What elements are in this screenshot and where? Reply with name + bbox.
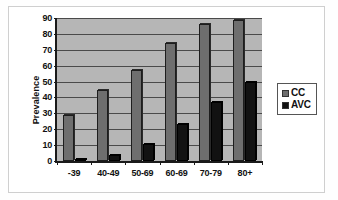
legend-item-label: AVC	[291, 100, 311, 110]
x-tick-label: 70-79	[200, 168, 222, 178]
bar-cc-40-49	[97, 90, 108, 162]
x-tick-label: -39	[68, 168, 80, 178]
y-tick-label: 10	[42, 140, 52, 150]
bar-cc--39	[63, 115, 74, 161]
legend-item-cc: CC	[282, 87, 311, 99]
y-tick-label: 50	[42, 77, 52, 87]
x-tick-mark	[262, 161, 263, 165]
bar-cc-60-69	[165, 43, 176, 161]
y-tick-label: 60	[42, 61, 52, 71]
chart-figure: Prevalence 0102030405060708090 -3940-495…	[0, 0, 338, 200]
y-axis-ticks: 0102030405060708090	[57, 18, 262, 161]
bar-cc-70-79	[199, 24, 210, 161]
x-tick-mark	[57, 161, 58, 165]
legend-item-avc: AVC	[282, 99, 311, 111]
y-tick-label: 30	[42, 108, 52, 118]
bar-avc-70-79	[211, 102, 222, 161]
x-tick-label: 60-69	[166, 168, 188, 178]
x-tick-mark	[91, 161, 92, 165]
chart-legend: CCAVC	[277, 83, 317, 115]
x-tick-label: 80+	[238, 168, 253, 178]
y-tick-mark	[54, 34, 57, 35]
black-square-icon	[282, 102, 289, 109]
x-tick-mark	[194, 161, 195, 165]
x-tick-label: 50-69	[131, 168, 153, 178]
y-axis-title: Prevalence	[31, 76, 41, 125]
legend-item-label: CC	[291, 88, 305, 98]
y-tick-mark	[54, 129, 57, 130]
y-tick-mark	[54, 97, 57, 98]
plot-area: 0102030405060708090 -3940-4950-6960-6970…	[55, 18, 262, 163]
y-tick-label: 70	[42, 45, 52, 55]
y-tick-label: 40	[42, 92, 52, 102]
bar-avc-80+	[245, 82, 256, 161]
y-tick-mark	[54, 66, 57, 67]
y-tick-label: 0	[47, 156, 52, 166]
y-tick-mark	[54, 145, 57, 146]
bar-cc-50-69	[131, 70, 142, 161]
y-tick-label: 90	[42, 13, 52, 23]
y-tick-mark	[54, 50, 57, 51]
x-tick-label: 40-49	[97, 168, 119, 178]
y-tick-label: 80	[42, 29, 52, 39]
y-tick-label: 20	[42, 124, 52, 134]
y-tick-mark	[54, 18, 57, 19]
bar-cc-80+	[233, 20, 244, 161]
gray-square-icon	[282, 90, 289, 97]
y-tick-mark	[54, 82, 57, 83]
bar-avc-50-69	[143, 144, 154, 161]
bar-avc-40-49	[109, 155, 120, 161]
y-tick-mark	[54, 113, 57, 114]
x-tick-mark	[125, 161, 126, 165]
x-tick-mark	[160, 161, 161, 165]
x-tick-mark	[228, 161, 229, 165]
bar-avc--39	[75, 159, 86, 161]
bar-avc-60-69	[177, 124, 188, 161]
